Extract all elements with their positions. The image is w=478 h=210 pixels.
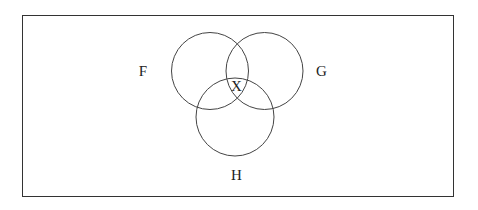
circle-g — [226, 33, 303, 110]
label-h: H — [231, 167, 242, 183]
label-x-intersection: X — [231, 78, 242, 94]
venn-diagram: F G H X — [0, 0, 478, 210]
label-f: F — [139, 63, 147, 79]
label-g: G — [316, 63, 327, 79]
